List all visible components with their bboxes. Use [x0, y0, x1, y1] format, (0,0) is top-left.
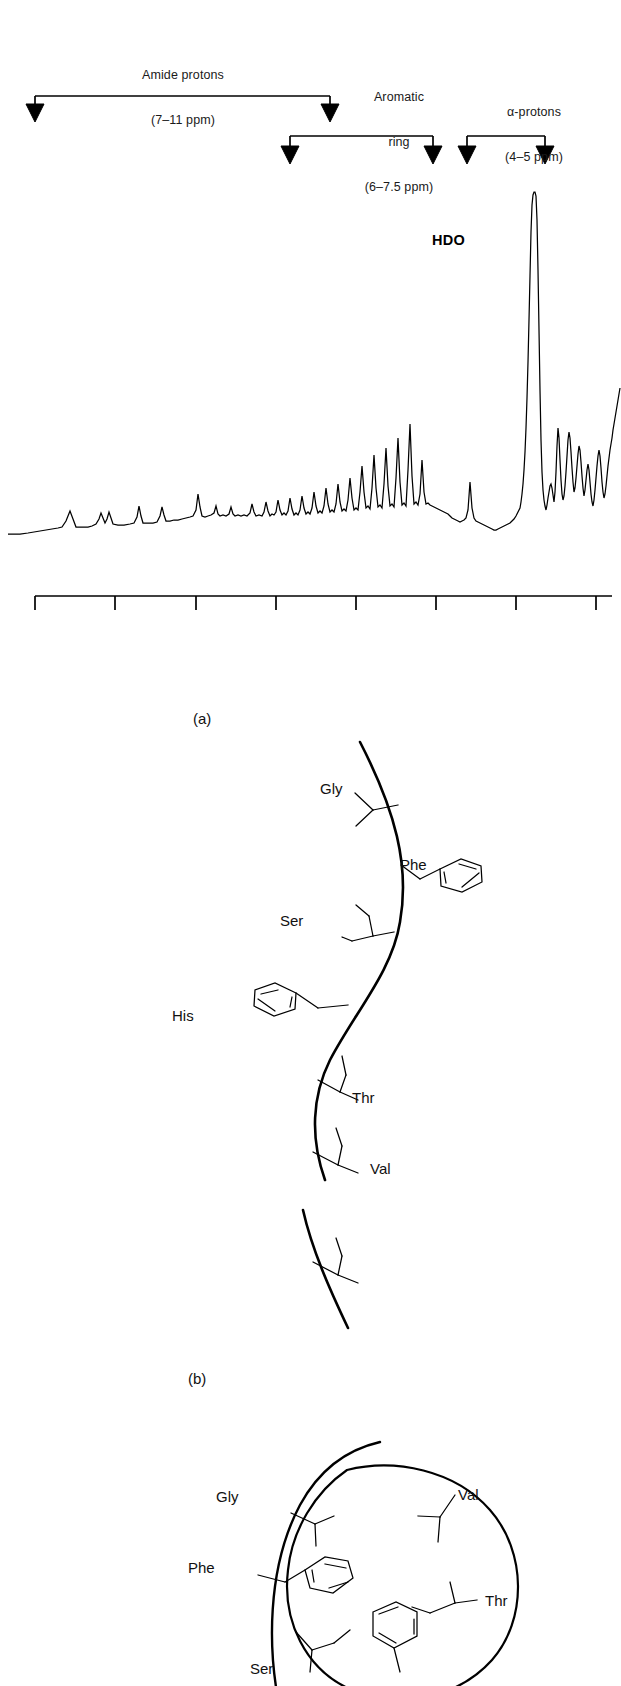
alpha-protons-line2: (4–5 ppm): [478, 150, 590, 165]
globule-side-chain-ser: [296, 1630, 350, 1672]
residue-label-gly: Gly: [320, 780, 343, 797]
folded-globule-panel: (b) Gly Val Phe Thr Ser: [0, 1220, 621, 1686]
caption-a: (a): [193, 710, 211, 727]
alpha-arrow-left: [458, 146, 476, 164]
amide-protons-line2: (7–11 ppm): [108, 113, 258, 128]
aromatic-ring-annotation: Aromatic ring (6–7.5 ppm): [338, 60, 460, 225]
globule-side-chain-val: [418, 1495, 455, 1542]
extended-chain-svg: [0, 660, 621, 1220]
ppm-axis: [35, 596, 612, 610]
residue-label-val: Val: [370, 1160, 391, 1177]
amide-protons-annotation: Amide protons (7–11 ppm): [108, 38, 258, 158]
globule-side-chain-thr: [412, 1582, 477, 1613]
aromatic-ring-line2: ring: [338, 135, 460, 150]
alpha-protons-annotation: α-protons (4–5 ppm): [478, 75, 590, 195]
residue-label-his: His: [172, 1007, 194, 1024]
figure-root: Amide protons (7–11 ppm) Aromatic ring (…: [0, 0, 621, 1686]
amide-protons-line1: Amide protons: [108, 68, 258, 83]
alpha-protons-line1: α-protons: [478, 105, 590, 120]
globule-label-val: Val: [458, 1486, 479, 1503]
residue-label-ser: Ser: [280, 912, 303, 929]
residue-label-thr: Thr: [352, 1089, 375, 1106]
side-chain-ser: [342, 905, 394, 941]
nmr-trace: [8, 192, 620, 534]
globule-side-chain-his: [373, 1602, 417, 1672]
nmr-spectrum-panel: Amide protons (7–11 ppm) Aromatic ring (…: [0, 0, 621, 660]
globule-outline: [272, 1442, 518, 1686]
aromatic-ring-line3: (6–7.5 ppm): [338, 180, 460, 195]
globule-side-chain-phe: [258, 1557, 353, 1593]
amide-arrow-left: [26, 104, 44, 122]
aromatic-ring-line1: Aromatic: [338, 90, 460, 105]
globule-label-gly: Gly: [216, 1488, 239, 1505]
hdo-peak-label: HDO: [432, 232, 465, 248]
globule-label-ser: Ser: [250, 1660, 273, 1677]
extended-chain-panel: (a) Gly Phe Ser His Thr Val: [0, 660, 621, 1220]
caption-b: (b): [188, 1370, 206, 1387]
residue-label-phe: Phe: [400, 856, 427, 873]
globule-label-thr: Thr: [485, 1592, 508, 1609]
side-chain-his: [254, 983, 348, 1016]
globule-label-phe: Phe: [188, 1559, 215, 1576]
amide-arrow-right: [321, 104, 339, 122]
peptide-backbone: [315, 742, 403, 1180]
folded-globule-svg: [0, 1220, 621, 1686]
aromatic-arrow-left: [281, 146, 299, 164]
